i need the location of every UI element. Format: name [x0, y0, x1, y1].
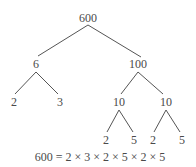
tree-edge	[138, 72, 163, 94]
node-2-left: 2	[11, 96, 17, 108]
node-100: 100	[129, 58, 147, 70]
tree-edge	[88, 25, 141, 57]
tree-edge	[36, 72, 58, 94]
tree-edges	[0, 0, 196, 167]
factorization-equation: 600 = 2 × 3 × 2 × 5 × 2 × 5	[35, 151, 166, 163]
node-2-leaf-b: 2	[150, 134, 156, 146]
tree-edge	[38, 25, 88, 56]
node-10-right: 10	[160, 96, 172, 108]
tree-edge	[166, 110, 180, 132]
tree-edge	[121, 72, 138, 94]
node-10-left: 10	[113, 96, 125, 108]
node-600: 600	[79, 12, 97, 24]
node-5-leaf-b: 5	[179, 134, 185, 146]
node-5-leaf-a: 5	[131, 134, 137, 146]
tree-edge	[15, 72, 36, 94]
node-6: 6	[33, 58, 39, 70]
tree-edge	[154, 110, 166, 132]
factor-tree-diagram: 600 6 100 2 3 10 10 2 5 2 5 600 = 2 × 3 …	[0, 0, 196, 167]
tree-edge	[119, 110, 133, 132]
node-2-leaf-a: 2	[103, 134, 109, 146]
tree-edge	[107, 110, 119, 132]
node-3: 3	[57, 96, 63, 108]
